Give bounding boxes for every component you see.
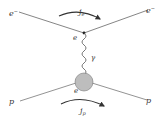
electron-vertex-charge-label: e (73, 34, 77, 42)
electron-out-label: e− (146, 5, 155, 15)
photon-line (82, 33, 86, 78)
proton-current-label: jp (78, 106, 86, 117)
electron-out-line (84, 10, 148, 33)
proton-current-arrow (61, 99, 104, 106)
proton-vertex-charge-label: e (74, 87, 78, 95)
proton-out-label: p (146, 96, 151, 105)
feynman-diagram: e− e− je e γ e p p jp (0, 0, 167, 121)
photon-label: γ (91, 54, 96, 62)
electron-current-label: je (77, 7, 84, 17)
proton-in-line (20, 83, 76, 101)
electron-in-line (19, 12, 84, 33)
electron-in-label: e− (9, 8, 18, 18)
proton-out-line (92, 83, 147, 100)
proton-in-label: p (9, 97, 14, 106)
